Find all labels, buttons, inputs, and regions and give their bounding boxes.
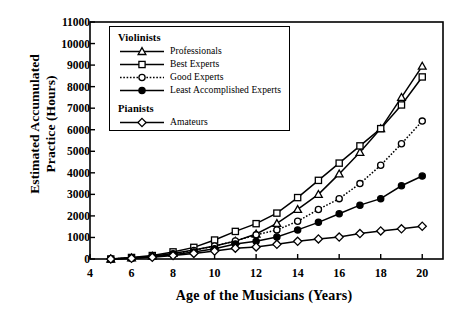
x-tick-label: 14 [281, 266, 315, 281]
x-tick-label: 8 [156, 266, 190, 281]
legend-item-least-accomplished-experts[interactable]: Least Accomplished Experts [118, 83, 283, 96]
chart-figure: Estimated Accumulated Practice (Hours) 0… [0, 0, 459, 316]
data-point-square-open [274, 210, 280, 216]
data-point-square-open [357, 143, 363, 149]
data-point-circle-open [295, 218, 301, 224]
legend-group-title-pianists: Pianists [118, 103, 283, 114]
data-point-circle-open [419, 118, 425, 124]
data-point-circle-filled [336, 211, 342, 217]
data-point-circle-filled [315, 219, 321, 225]
data-point-diamond-open [356, 229, 364, 237]
chart-legend: ViolinistsProfessionalsBest ExpertsGood … [109, 26, 290, 131]
data-point-circle-filled [357, 202, 363, 208]
data-point-square-open [211, 237, 217, 243]
series-line [111, 176, 422, 259]
legend-group-title-violinists: Violinists [118, 32, 283, 43]
series-line [111, 121, 422, 259]
x-tick-label: 20 [405, 266, 439, 281]
legend-marker-square-open [118, 57, 166, 70]
data-point-square-open [398, 102, 404, 108]
data-point-diamond-open [294, 237, 302, 245]
data-point-diamond-open [314, 235, 322, 243]
legend-item-professionals[interactable]: Professionals [118, 44, 283, 57]
data-point-circle-open [253, 232, 259, 238]
data-point-triangle-open [273, 220, 281, 227]
legend-item-amateurs[interactable]: Amateurs [118, 115, 283, 128]
data-point-diamond-open [335, 233, 343, 241]
x-tick-label: 12 [239, 266, 273, 281]
legend-swatch-diamond-open [118, 116, 166, 129]
data-point-square-open [419, 74, 425, 80]
data-point-circle-filled [419, 173, 425, 179]
data-point-square-open [315, 177, 321, 183]
data-point-square-open [253, 221, 259, 227]
x-axis-tick-labels: 468101214161820 [0, 266, 459, 286]
data-point-circle-filled [378, 196, 384, 202]
data-point-circle-open [315, 206, 321, 212]
legend-marker-circle-open [118, 70, 166, 83]
x-tick-label: 4 [73, 266, 107, 281]
x-tick-label: 16 [322, 266, 356, 281]
x-axis-title: Age of the Musicians (Years) [86, 288, 442, 304]
series-least-accomplished-experts [108, 173, 426, 262]
legend-marker-diamond-open [118, 115, 166, 128]
x-tick-label: 18 [364, 266, 398, 281]
data-point-circle-filled [139, 87, 145, 93]
legend-item-good-experts[interactable]: Good Experts [118, 70, 283, 83]
x-tick-label: 6 [115, 266, 149, 281]
data-point-circle-open [336, 196, 342, 202]
data-point-square-open [232, 228, 238, 234]
series-good-experts [108, 118, 426, 262]
legend-label: Professionals [166, 45, 222, 56]
data-point-diamond-open [418, 222, 426, 230]
data-point-diamond-open [397, 225, 405, 233]
legend-label: Good Experts [166, 71, 224, 82]
data-point-square-open [139, 61, 145, 67]
data-point-square-open [295, 194, 301, 200]
legend-marker-circle-filled [118, 83, 166, 96]
data-point-circle-open [378, 162, 384, 168]
data-point-circle-open [274, 227, 280, 233]
data-point-triangle-open [418, 62, 426, 69]
legend-swatch-circle-filled [118, 84, 166, 97]
data-point-diamond-open [377, 227, 385, 235]
x-tick-label: 10 [198, 266, 232, 281]
data-point-diamond-open [138, 118, 146, 126]
data-point-diamond-open [252, 243, 260, 251]
legend-label: Best Experts [166, 58, 219, 69]
data-point-circle-filled [295, 227, 301, 233]
data-point-circle-open [398, 141, 404, 147]
data-point-circle-filled [398, 183, 404, 189]
legend-marker-triangle-open [118, 44, 166, 57]
data-point-diamond-open [273, 240, 281, 248]
data-point-square-open [336, 160, 342, 166]
legend-group-spacer [118, 96, 283, 103]
data-point-circle-filled [274, 234, 280, 240]
data-point-square-open [378, 126, 384, 132]
data-point-circle-open [139, 74, 145, 80]
data-point-circle-open [357, 180, 363, 186]
legend-item-best-experts[interactable]: Best Experts [118, 57, 283, 70]
legend-label: Least Accomplished Experts [166, 84, 281, 95]
legend-label: Amateurs [166, 116, 208, 127]
